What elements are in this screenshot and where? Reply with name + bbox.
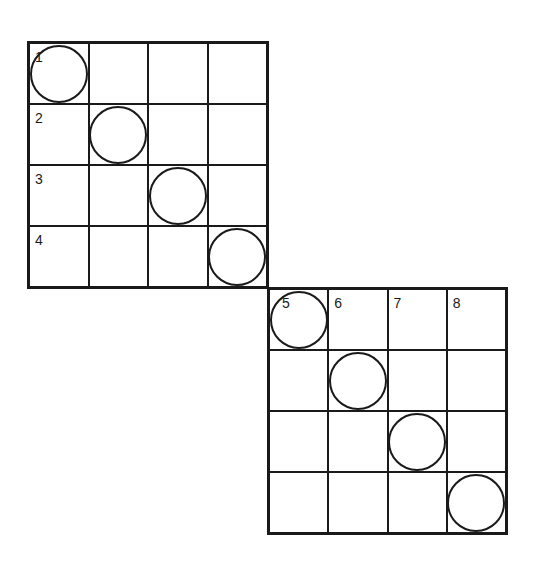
cell-r4-c1: 4 xyxy=(29,226,89,287)
circle-marker xyxy=(447,474,505,532)
cell-r4-c3 xyxy=(388,472,447,533)
cell-r4-c3 xyxy=(148,226,208,287)
circle-marker xyxy=(30,45,88,103)
cell-r3-c4 xyxy=(208,165,268,226)
cell-r2-c1 xyxy=(269,350,328,411)
cell-r2-c4 xyxy=(208,104,268,165)
cell-r2-c3 xyxy=(388,350,447,411)
column-label: 8 xyxy=(453,295,461,311)
cell-r2-c3 xyxy=(148,104,208,165)
row-label: 3 xyxy=(35,171,43,187)
cell-r3-c3 xyxy=(148,165,208,226)
cell-r1-c4 xyxy=(208,43,268,104)
circle-marker xyxy=(329,352,387,410)
cell-r2-c4 xyxy=(447,350,506,411)
cell-r2-c2 xyxy=(89,104,149,165)
cell-r3-c1: 3 xyxy=(29,165,89,226)
cell-r4-c1 xyxy=(269,472,328,533)
lower-grid: 5 6 7 8 xyxy=(267,287,508,535)
row-label: 2 xyxy=(35,110,43,126)
circle-marker xyxy=(208,228,266,286)
cell-r1-c3 xyxy=(148,43,208,104)
column-label: 5 xyxy=(282,295,290,311)
cell-r4-c4 xyxy=(208,226,268,287)
circle-marker xyxy=(89,106,147,164)
cell-r4-c2 xyxy=(89,226,149,287)
cell-r1-c1: 5 xyxy=(269,289,328,350)
circle-marker xyxy=(270,291,328,349)
upper-grid: 1 2 3 4 xyxy=(27,41,269,289)
column-label: 6 xyxy=(334,295,342,311)
cell-r3-c4 xyxy=(447,411,506,472)
cell-r2-c1: 2 xyxy=(29,104,89,165)
column-label: 7 xyxy=(394,295,402,311)
cell-r1-c2: 6 xyxy=(328,289,387,350)
cell-r3-c3 xyxy=(388,411,447,472)
row-label: 4 xyxy=(35,232,43,248)
cell-r3-c2 xyxy=(89,165,149,226)
cell-r1-c1: 1 xyxy=(29,43,89,104)
cell-r3-c1 xyxy=(269,411,328,472)
cell-r4-c2 xyxy=(328,472,387,533)
circle-marker xyxy=(149,167,207,225)
cell-r3-c2 xyxy=(328,411,387,472)
circle-marker xyxy=(388,413,446,471)
cell-r1-c3: 7 xyxy=(388,289,447,350)
cell-r2-c2 xyxy=(328,350,387,411)
cell-r1-c2 xyxy=(89,43,149,104)
cell-r1-c4: 8 xyxy=(447,289,506,350)
cell-r4-c4 xyxy=(447,472,506,533)
